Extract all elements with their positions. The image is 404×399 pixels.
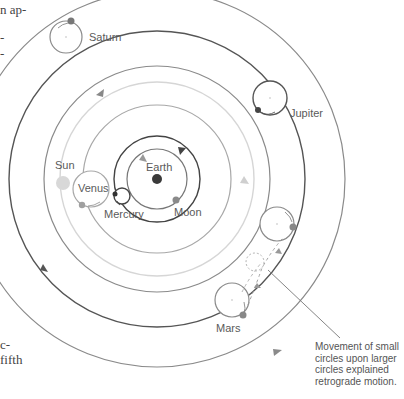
jupiter-label: Jupiter	[290, 107, 323, 119]
mars-label: Mars	[216, 322, 241, 334]
caption: Movement of small circles upon larger ci…	[315, 341, 404, 387]
caption-leader-line	[268, 270, 340, 338]
margin-text-line: -	[0, 46, 4, 61]
venus-label: Venus	[78, 182, 109, 194]
sun-label: Sun	[55, 159, 75, 171]
arrow-icon	[96, 89, 104, 97]
margin-text-line: -	[0, 30, 4, 45]
arrow-icon	[178, 147, 186, 155]
arrow-icon	[240, 176, 249, 184]
moon	[173, 197, 180, 204]
sun	[56, 176, 70, 190]
mercury-label: Mercury	[104, 208, 144, 220]
mars-epicycle-upper	[260, 207, 297, 241]
caption-line: circles explained	[315, 364, 404, 376]
moon-label: Moon	[174, 206, 202, 218]
jupiter-epicycle	[253, 81, 287, 115]
earth	[152, 174, 162, 184]
caption-line: circles upon larger	[315, 353, 404, 365]
saturn-epicycle	[50, 18, 82, 54]
arrow-icon	[275, 248, 282, 254]
margin-text-line: fifth	[0, 352, 23, 367]
earth-label: Earth	[146, 161, 172, 173]
margin-text-line: c-	[0, 337, 10, 352]
arrow-icon	[273, 349, 282, 356]
geocentric-diagram: n ap- - - c- fifth	[0, 0, 404, 399]
margin-text-line: n ap-	[0, 2, 26, 17]
retrograde-path	[248, 238, 283, 305]
caption-line: retrograde motion.	[315, 376, 404, 388]
saturn-orbit	[0, 0, 345, 367]
saturn-label: Saturn	[89, 31, 121, 43]
caption-line: Movement of small	[315, 341, 404, 353]
mars-epicycle-ghost	[246, 253, 264, 271]
